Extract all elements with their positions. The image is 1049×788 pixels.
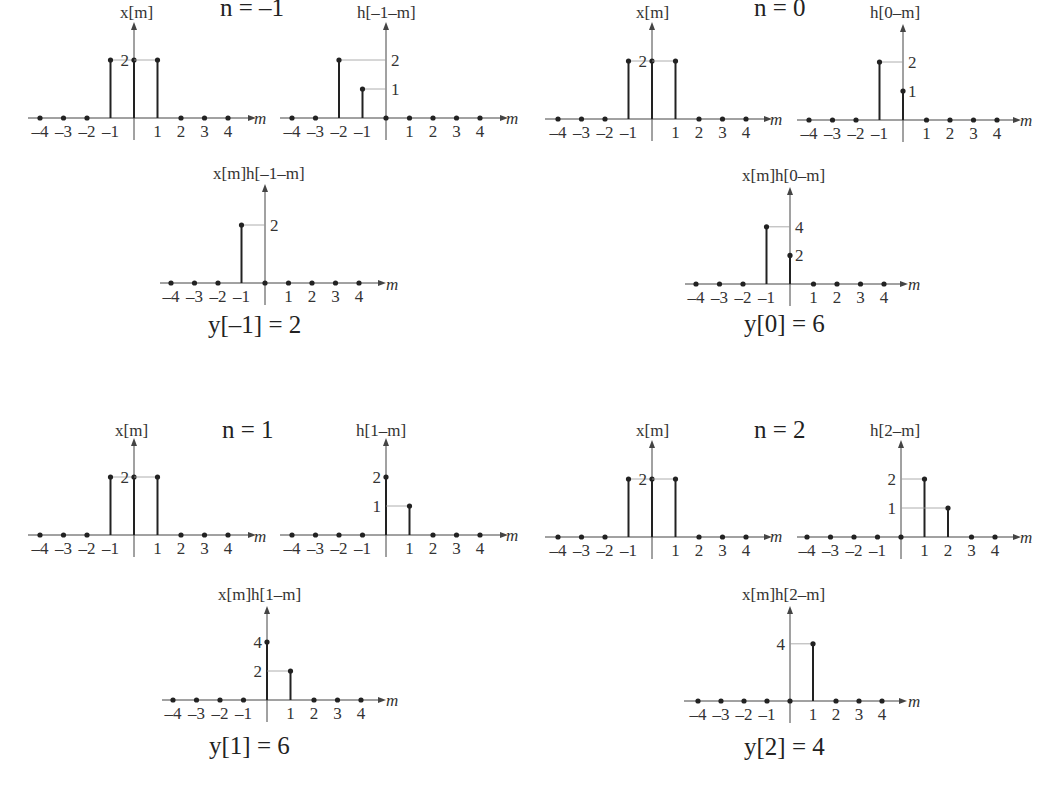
n-label: n = 1: [222, 416, 274, 443]
sample-dot: [360, 86, 365, 91]
tick-label: 4: [993, 124, 1002, 143]
sample-dot: [264, 639, 269, 644]
tick-label: –2: [211, 704, 229, 723]
sample-dot: [202, 115, 207, 120]
m-axis-label: m: [770, 527, 782, 546]
y-tick-label: 1: [373, 497, 382, 516]
stem-plot-product: x[m]h[1–m] m –4–3–2–1123442: [162, 585, 398, 723]
sample-dot: [673, 58, 678, 63]
tick-label: 4: [991, 541, 1000, 560]
tick-label: 3: [200, 539, 209, 558]
panel-n-1: n = 1 x[m] m –4–3–2–112342 h[1–m] m –4–3…: [28, 416, 518, 759]
sample-dot: [155, 474, 160, 479]
sample-dot: [454, 532, 459, 537]
tick-label: –1: [619, 123, 637, 142]
tick-label: –1: [353, 122, 371, 141]
sample-dot: [858, 281, 863, 286]
plot-title: h[0–m]: [870, 3, 920, 22]
tick-label: –2: [209, 287, 227, 306]
tick-label: 3: [969, 124, 978, 143]
tick-label: 1: [405, 539, 414, 558]
plot-title: x[m]h[0–m]: [742, 166, 825, 185]
tick-label: 1: [671, 123, 680, 142]
tick-label: –2: [78, 539, 96, 558]
tick-label: 1: [153, 539, 162, 558]
sample-dot: [311, 697, 316, 702]
tick-label: 4: [476, 122, 485, 141]
tick-label: 4: [476, 539, 485, 558]
y-tick-label: 4: [777, 635, 786, 654]
arrow-up-icon: [383, 22, 389, 30]
m-axis-label: m: [386, 691, 398, 710]
sample-dot: [579, 116, 584, 121]
sample-dot: [313, 532, 318, 537]
tick-label: –4: [164, 704, 183, 723]
arrow-up-icon: [131, 22, 137, 30]
sample-dot: [288, 668, 293, 673]
arrow-up-icon: [649, 440, 655, 448]
sample-dot: [810, 641, 815, 646]
sample-dot: [741, 698, 746, 703]
result-y-1: y[1] = 6: [209, 732, 290, 759]
sample-dot: [37, 115, 42, 120]
tick-label: –4: [162, 287, 181, 306]
m-axis-label: m: [254, 527, 266, 546]
stem-plot-x: x[m] m –4–3–2–112342: [545, 421, 782, 560]
sample-dot: [695, 698, 700, 703]
tick-label: 4: [880, 288, 889, 307]
tick-label: 1: [671, 541, 680, 560]
tick-label: –4: [549, 123, 568, 142]
sample-dot: [108, 474, 113, 479]
plot-title: h[–1–m]: [357, 3, 416, 22]
m-axis-label: m: [386, 275, 398, 294]
sample-dot: [879, 698, 884, 703]
sample-dot: [286, 280, 291, 285]
sample-dot: [853, 117, 858, 122]
sample-dot: [336, 57, 341, 62]
stem-plot-product: x[m]h[2–m] m –4–3–2–112344: [684, 585, 920, 724]
tick-label: 3: [718, 541, 727, 560]
y-tick-label: 2: [121, 51, 130, 70]
sample-dot: [84, 115, 89, 120]
sample-dot: [626, 476, 631, 481]
tick-label: –1: [101, 122, 119, 141]
tick-label: –3: [54, 539, 72, 558]
stem-plot-x: x[m] m –4–3–2–112342: [28, 3, 266, 141]
y-tick-label: 2: [888, 470, 897, 489]
plot-title: x[m]: [636, 3, 669, 22]
sample-dot: [555, 534, 560, 539]
arrow-up-icon: [262, 184, 268, 192]
sample-dot: [602, 534, 607, 539]
tick-label: 2: [832, 705, 841, 724]
y-tick-label: 2: [121, 468, 130, 487]
stem-plot-h: h[–1–m] m –4–3–2–1123421: [280, 3, 518, 141]
n-label: n = 0: [754, 0, 806, 21]
sample-dot: [335, 697, 340, 702]
sample-dot: [787, 698, 792, 703]
y-tick-label: 2: [639, 470, 648, 489]
sample-dot: [806, 117, 811, 122]
sample-dot: [155, 57, 160, 62]
sample-dot: [170, 697, 175, 702]
tick-label: 2: [310, 704, 319, 723]
sample-dot: [178, 532, 183, 537]
sample-dot: [969, 534, 974, 539]
m-axis-label: m: [506, 526, 518, 545]
sample-dot: [875, 534, 880, 539]
tick-label: –2: [847, 124, 865, 143]
y-tick-label: 2: [908, 53, 917, 72]
sample-dot: [241, 697, 246, 702]
tick-label: 3: [718, 123, 727, 142]
sample-dot: [922, 476, 927, 481]
tick-label: –3: [306, 539, 324, 558]
stem-plot-product: x[m]h[–1–m] m –4–3–2–112342: [160, 164, 398, 306]
tick-label: 1: [922, 124, 931, 143]
tick-label: 2: [695, 123, 704, 142]
sample-dot: [945, 505, 950, 510]
y-tick-label: 2: [254, 662, 263, 681]
tick-label: –3: [185, 287, 203, 306]
tick-label: –2: [330, 122, 348, 141]
sample-dot: [84, 532, 89, 537]
arrow-up-icon: [649, 22, 655, 30]
tick-label: 2: [833, 288, 842, 307]
